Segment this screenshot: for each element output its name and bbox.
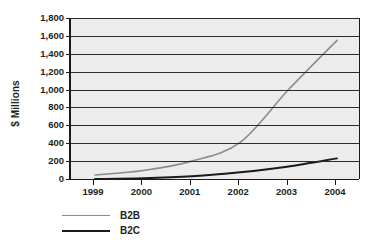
x-axis-tick-mark <box>141 180 142 185</box>
x-axis-tick-mark <box>238 180 239 185</box>
legend-item[interactable]: B2B <box>62 208 222 223</box>
legend-item[interactable]: B2C <box>62 223 222 238</box>
gridline <box>71 72 359 73</box>
y-axis-tick-label: 1,200 <box>22 67 64 77</box>
x-axis-tick-label: 2004 <box>324 186 345 197</box>
y-axis-tick-mark <box>66 18 71 19</box>
x-axis-tick-mark <box>190 180 191 185</box>
y-axis-tick-label: 1,800 <box>22 13 64 23</box>
y-axis-tick-label: 200 <box>22 156 64 166</box>
y-axis-tick-label: 600 <box>22 120 64 130</box>
y-axis-tick-mark <box>66 161 71 162</box>
y-axis-tick-label: 800 <box>22 102 64 112</box>
y-axis-tick-mark <box>66 36 71 37</box>
y-axis-tick-mark <box>66 54 71 55</box>
x-axis-tick-mark <box>287 180 288 185</box>
legend-line-swatch <box>62 230 110 232</box>
y-axis-tick-labels: 02004006008001,0001,2001,4001,6001,800 <box>22 13 64 185</box>
y-axis-tick-label: 1,000 <box>22 85 64 95</box>
series-layer <box>71 18 359 179</box>
y-axis-tick-mark <box>66 90 71 91</box>
y-axis-tick-mark <box>66 72 71 73</box>
gridline <box>71 143 359 144</box>
legend-label: B2B <box>120 210 140 221</box>
y-axis-tick-label: 1,600 <box>22 31 64 41</box>
y-axis-tick-label: 0 <box>22 174 64 184</box>
gridline <box>71 54 359 55</box>
x-axis-tick-label: 2002 <box>228 186 249 197</box>
legend-label: B2C <box>120 225 140 236</box>
x-axis-tick-label: 1999 <box>82 186 103 197</box>
plot-area <box>69 18 360 179</box>
chart-figure: $ Millions 02004006008001,0001,2001,4001… <box>0 0 373 243</box>
gridline <box>71 18 359 19</box>
legend-line-swatch <box>62 215 110 216</box>
y-axis-tick-label: 1,400 <box>22 49 64 59</box>
gridline <box>71 161 359 162</box>
y-axis-tick-mark <box>66 107 71 108</box>
gridline <box>71 107 359 108</box>
x-axis-tick-label: 2003 <box>276 186 297 197</box>
chart-legend: B2BB2C <box>62 208 222 238</box>
gridline <box>71 90 359 91</box>
x-axis-tick-mark <box>335 180 336 185</box>
y-axis-tick-label: 400 <box>22 138 64 148</box>
x-axis-line <box>69 179 358 180</box>
y-axis-title-text: $ Millions <box>10 80 21 127</box>
y-axis-tick-mark <box>66 143 71 144</box>
x-axis-tick-mark <box>93 180 94 185</box>
x-axis-tick-label: 2001 <box>179 186 200 197</box>
gridline <box>71 125 359 126</box>
y-axis-tick-mark <box>66 125 71 126</box>
x-axis-tick-label: 2000 <box>131 186 152 197</box>
gridline <box>71 36 359 37</box>
